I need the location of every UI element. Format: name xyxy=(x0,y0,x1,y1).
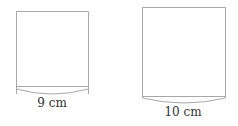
cylinder-large-outline xyxy=(143,8,226,99)
cylinder-small: 9 cm xyxy=(17,12,89,111)
cylinder-small-label: 9 cm xyxy=(37,96,67,110)
cylinder-small-outline xyxy=(17,12,89,95)
cylinder-large-base-arc xyxy=(143,97,226,104)
cylinder-large: 10 cm xyxy=(143,8,226,120)
diagram-canvas: 9 cm 10 cm xyxy=(0,0,238,126)
cylinder-large-label: 10 cm xyxy=(164,105,202,119)
cylinder-small-base-arc xyxy=(17,87,89,95)
